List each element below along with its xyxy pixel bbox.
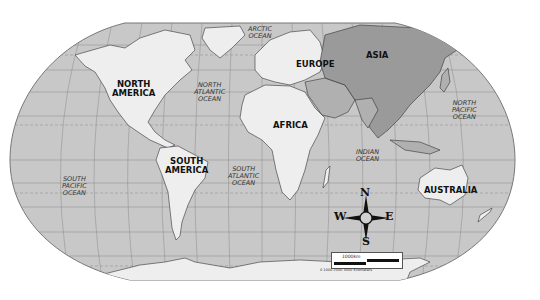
compass-east: E xyxy=(385,210,393,223)
label-indian-ocean: INDIAN OCEAN xyxy=(356,149,379,163)
compass-south: S xyxy=(362,235,370,248)
label-australia: AUSTRALIA xyxy=(424,186,477,195)
label-line: AMERICA xyxy=(165,166,208,175)
label-north-pacific-ocean: NORTH PACIFIC OCEAN xyxy=(452,100,477,120)
label-asia: ASIA xyxy=(366,51,388,60)
label-south-pacific-ocean: SOUTH PACIFIC OCEAN xyxy=(62,176,87,196)
world-map xyxy=(0,0,540,300)
compass-west: W xyxy=(334,210,346,223)
label-north-america: NORTH AMERICA xyxy=(112,80,155,98)
compass-north: N xyxy=(360,186,370,199)
scale-bar: 1000km xyxy=(331,252,403,269)
label-line: OCEAN xyxy=(248,33,272,40)
label-line: AUSTRALIA xyxy=(424,186,477,195)
scale-bar-segment xyxy=(334,262,366,265)
label-line: OCEAN xyxy=(62,190,87,197)
scale-ticks: 0 1000 2000 3000 Kilometers xyxy=(320,268,372,272)
label-europe: EUROPE xyxy=(296,60,335,69)
label-line: OCEAN xyxy=(194,96,225,103)
label-line: OCEAN xyxy=(228,180,259,187)
label-line: EUROPE xyxy=(296,60,335,69)
scale-label: 1000km xyxy=(342,254,360,259)
label-line: ASIA xyxy=(366,51,388,60)
label-line: AMERICA xyxy=(112,89,155,98)
label-arctic-ocean: ARCTIC OCEAN xyxy=(248,26,272,40)
label-south-atlantic-ocean: SOUTH ATLANTIC OCEAN xyxy=(228,166,259,186)
label-north-atlantic-ocean: NORTH ATLANTIC OCEAN xyxy=(194,82,225,102)
scale-bar-segment xyxy=(367,259,399,262)
label-line: OCEAN xyxy=(356,156,379,163)
label-south-america: SOUTH AMERICA xyxy=(165,157,208,175)
label-line: OCEAN xyxy=(452,114,477,121)
label-line: AFRICA xyxy=(273,121,308,130)
label-africa: AFRICA xyxy=(273,121,308,130)
